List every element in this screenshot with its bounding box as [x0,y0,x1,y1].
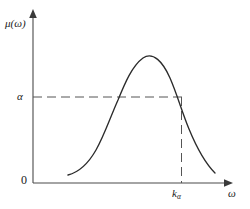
origin-label: 0 [21,174,27,186]
plot-canvas [0,0,250,209]
x-axis-label: ω [228,188,236,199]
y-axis-label: μ(ω) [5,18,26,29]
y-axis-arrow-icon [29,9,37,18]
ka-subscript: α [177,192,181,201]
figure-container: μ(ω) α 0 kα ω [0,0,250,209]
membership-curve [68,56,215,175]
ka-tick-label: kα [172,188,181,201]
x-axis-arrow-icon [224,179,233,187]
alpha-tick-label: α [17,91,23,102]
